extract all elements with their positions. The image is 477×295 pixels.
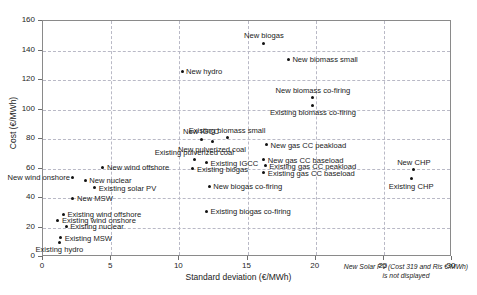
data-point[interactable] (311, 96, 314, 99)
data-point-label: Existing nuclear (70, 222, 124, 231)
x-tick-mark (383, 256, 384, 260)
y-tick-mark (38, 79, 42, 80)
x-tick-label: 20 (295, 261, 335, 270)
data-point[interactable] (265, 143, 268, 146)
data-point-label: Existing MSW (65, 233, 112, 242)
data-point-label: Existing biomass small (189, 126, 266, 135)
plot-area: New biogasNew biomass smallNew hydroNew … (42, 20, 451, 256)
data-point[interactable] (208, 185, 211, 188)
y-tick-label: 160 (0, 15, 35, 24)
y-tick-mark (38, 20, 42, 21)
x-tick-mark (247, 256, 248, 260)
data-point[interactable] (58, 241, 61, 244)
data-point[interactable] (262, 158, 265, 161)
y-tick-mark (38, 227, 42, 228)
data-point-label: New gas CC peakload (271, 140, 347, 149)
data-point-label: New wind offshore (107, 163, 169, 172)
y-tick-mark (38, 197, 42, 198)
data-point-label: New biomass small (292, 55, 357, 64)
gridline-horizontal (43, 80, 450, 81)
x-tick-mark (315, 256, 316, 260)
data-point-label: New MSW (77, 194, 113, 203)
gridline-horizontal (43, 110, 450, 111)
x-tick-mark (110, 256, 111, 260)
data-point-label: Existing biogas co-firing (211, 207, 291, 216)
data-point-label: Existing CHP (389, 182, 434, 191)
x-tick-label: 5 (90, 261, 130, 270)
data-point-label: Existing biomass co-firing (270, 108, 356, 117)
gridline-vertical (384, 21, 385, 255)
scatter-chart: New biogasNew biomass smallNew hydroNew … (0, 0, 477, 295)
x-tick-mark (178, 256, 179, 260)
data-point[interactable] (181, 70, 184, 73)
data-point[interactable] (262, 171, 265, 174)
y-tick-label: 40 (0, 192, 35, 201)
x-tick-label: 10 (158, 261, 198, 270)
data-point[interactable] (193, 158, 196, 161)
x-tick-mark (42, 256, 43, 260)
y-tick-mark (38, 168, 42, 169)
data-point[interactable] (205, 210, 208, 213)
data-point[interactable] (410, 177, 413, 180)
y-tick-label: 20 (0, 222, 35, 231)
x-tick-label: 15 (227, 261, 267, 270)
data-point-label: Existing solar PV (99, 183, 156, 192)
data-point-label: Existing pulverized coal (155, 148, 234, 157)
data-point[interactable] (200, 138, 203, 141)
data-point-label: Existing hydro (36, 245, 84, 254)
data-point[interactable] (56, 219, 59, 222)
x-tick-mark (451, 256, 452, 260)
data-point[interactable] (191, 167, 194, 170)
data-point[interactable] (412, 168, 415, 171)
data-point[interactable] (264, 164, 267, 167)
y-tick-mark (38, 109, 42, 110)
gridline-vertical (179, 21, 180, 255)
data-point-label: New biogas (244, 31, 284, 40)
y-axis-title: Cost (€/MWh) (8, 58, 18, 188)
gridline-horizontal (43, 51, 450, 52)
data-point[interactable] (287, 58, 290, 61)
data-point[interactable] (311, 104, 314, 107)
data-point-label: New hydro (186, 67, 222, 76)
chart-footnote: New Solar PV (Cost 319 and Ris €/MWh) is… (341, 263, 471, 280)
data-point[interactable] (84, 179, 87, 182)
y-tick-label: 0 (0, 251, 35, 260)
data-point[interactable] (211, 140, 214, 143)
x-tick-label: 0 (22, 261, 62, 270)
data-point[interactable] (71, 176, 74, 179)
gridline-horizontal (43, 139, 450, 140)
data-point-label: New biogas co-firing (213, 182, 282, 191)
data-point-label: Existing biogas (197, 164, 248, 173)
data-point[interactable] (93, 186, 96, 189)
data-point-label: New biomass co-firing (276, 86, 351, 95)
y-tick-mark (38, 50, 42, 51)
y-tick-label: 140 (0, 45, 35, 54)
y-tick-mark (38, 138, 42, 139)
data-point[interactable] (262, 42, 265, 45)
data-point[interactable] (226, 136, 229, 139)
data-point[interactable] (65, 225, 68, 228)
data-point-label: Existing gas CC baseload (268, 168, 355, 177)
gridline-vertical (248, 21, 249, 255)
data-point-label: New CHP (397, 158, 430, 167)
data-point[interactable] (59, 236, 62, 239)
